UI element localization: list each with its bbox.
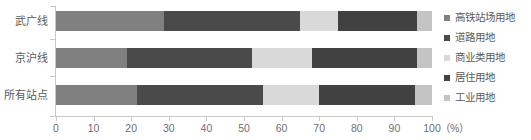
y-axis-category-label: 京沪线 — [0, 52, 48, 64]
bar-segment — [263, 85, 319, 105]
legend-swatch-icon — [444, 15, 450, 21]
y-axis-category-label: 武广线 — [0, 15, 48, 27]
legend-swatch-icon — [444, 75, 450, 81]
x-axis-tick — [357, 117, 358, 121]
bar-segment — [127, 48, 251, 68]
x-axis-tick-label: 50 — [229, 122, 259, 135]
bar-segment — [56, 11, 164, 31]
x-axis-tick-label: 20 — [116, 122, 146, 135]
y-axis-tick — [50, 116, 55, 117]
x-axis-tick-label: 60 — [267, 122, 297, 135]
x-axis-tick-label: 10 — [79, 122, 109, 135]
chart-legend: 高铁站场用地道路用地商业类用地居住用地工业用地 — [444, 8, 531, 108]
x-axis-tick — [131, 117, 132, 121]
legend-item[interactable]: 商业类用地 — [444, 48, 531, 67]
x-axis-tick-label: 90 — [379, 122, 409, 135]
x-axis-tick — [169, 117, 170, 121]
legend-item-label: 工业用地 — [455, 92, 495, 103]
x-axis-tick — [394, 117, 395, 121]
x-axis-tick — [244, 117, 245, 121]
legend-item[interactable]: 居住用地 — [444, 68, 531, 87]
legend-swatch-icon — [444, 35, 450, 41]
legend-item-label: 居住用地 — [455, 72, 495, 83]
legend-item[interactable]: 道路用地 — [444, 28, 531, 47]
bar-segment — [417, 11, 432, 31]
bar-segment — [300, 11, 338, 31]
x-axis-unit-label: （%） — [440, 122, 469, 135]
bar-segment — [319, 85, 415, 105]
x-axis-tick — [282, 117, 283, 121]
legend-swatch-icon — [444, 55, 450, 61]
x-axis-tick — [56, 117, 57, 121]
y-axis-tick — [50, 76, 55, 77]
x-axis-tick-label: 30 — [154, 122, 184, 135]
x-axis-tick-label: 40 — [191, 122, 221, 135]
legend-item-label: 商业类用地 — [455, 52, 505, 63]
bar-segment — [338, 11, 417, 31]
y-axis-tick — [50, 6, 55, 7]
x-axis-tick — [319, 117, 320, 121]
bar-segment — [252, 48, 312, 68]
legend-item[interactable]: 工业用地 — [444, 88, 531, 107]
bar-segment — [415, 85, 432, 105]
bar-segment — [312, 48, 417, 68]
x-axis-tick-label: 0 — [41, 122, 71, 135]
y-axis-tick — [50, 39, 55, 40]
bar-segment — [137, 85, 263, 105]
bar-segment — [164, 11, 300, 31]
x-axis-tick — [94, 117, 95, 121]
x-axis-tick-label: 70 — [304, 122, 334, 135]
x-axis-tick-label: 80 — [342, 122, 372, 135]
bar-segment — [417, 48, 432, 68]
legend-item-label: 道路用地 — [455, 32, 495, 43]
legend-swatch-icon — [444, 95, 450, 101]
bar-row — [56, 11, 432, 31]
bar-row — [56, 85, 432, 105]
legend-item-label: 高铁站场用地 — [455, 12, 515, 23]
bar-row — [56, 48, 432, 68]
x-axis-tick — [432, 117, 433, 121]
stacked-bar-chart: 武广线京沪线所有站点 0102030405060708090100 （%） 高铁… — [0, 0, 531, 140]
y-axis-category-label: 所有站点 — [0, 89, 48, 101]
legend-item[interactable]: 高铁站场用地 — [444, 8, 531, 27]
bar-segment — [56, 85, 137, 105]
x-axis-tick — [206, 117, 207, 121]
bar-segment — [56, 48, 127, 68]
